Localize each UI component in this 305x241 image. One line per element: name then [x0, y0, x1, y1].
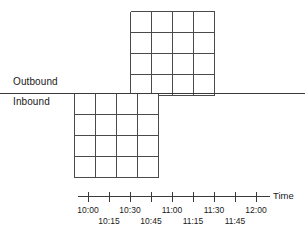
outbound-label: Outbound: [13, 76, 58, 87]
time-axis-label: Time: [273, 190, 294, 201]
inbound-label: Inbound: [13, 96, 50, 107]
time-tick-label: 11:30: [204, 205, 225, 216]
chart-container: Outbound Inbound Time 10:0010:3011:0011:…: [0, 0, 305, 241]
inbound-block-group: [74, 93, 159, 178]
time-tick-label: 10:45: [140, 216, 161, 227]
time-tick-label: 11:15: [183, 216, 204, 227]
time-tick-label: 12:00: [245, 205, 266, 216]
time-tick-label: 11:00: [162, 205, 183, 216]
outbound-block-group: [130, 11, 215, 96]
time-axis-group: [78, 192, 270, 202]
time-tick-label: 10:15: [98, 216, 119, 227]
time-tick-label: 10:30: [119, 205, 140, 216]
time-tick-label: 10:00: [77, 205, 98, 216]
time-tick-label: 11:45: [225, 216, 246, 227]
